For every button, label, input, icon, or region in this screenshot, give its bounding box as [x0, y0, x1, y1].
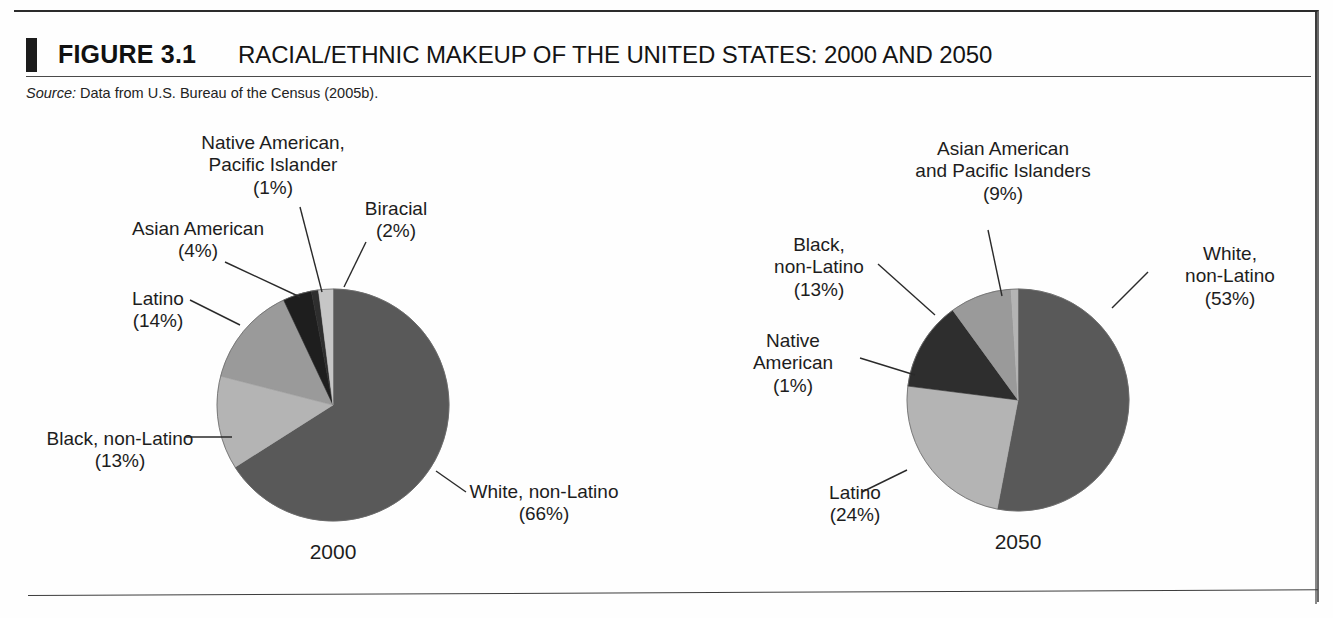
figure-header-accent-bar — [26, 38, 37, 72]
callout-2000-asian-american: Asian American (4%) — [108, 218, 288, 263]
year-label-2000: 2000 — [283, 540, 383, 564]
callout-2000-biracial: Biracial (2%) — [326, 198, 466, 243]
figure-frame-right-edge — [1315, 12, 1317, 604]
title-rule — [26, 76, 1311, 77]
figure-page: FIGURE 3.1 RACIAL/ETHNIC MAKEUP OF THE U… — [0, 0, 1333, 618]
source-text: Data from U.S. Bureau of the Census (200… — [76, 85, 378, 101]
figure-title: RACIAL/ETHNIC MAKEUP OF THE UNITED STATE… — [238, 41, 992, 69]
callout-2050-white-non-latino: White, non-Latino (53%) — [1155, 243, 1305, 310]
callout-2000-latino: Latino (14%) — [108, 288, 208, 333]
callout-2050-native-american: Native American (1%) — [718, 330, 868, 397]
figure-number: FIGURE 3.1 — [58, 40, 196, 69]
callout-2000-native-american-pacific-islander: Native American, Pacific Islander (1%) — [148, 132, 398, 199]
figure-header: FIGURE 3.1 RACIAL/ETHNIC MAKEUP OF THE U… — [26, 36, 1226, 76]
callout-2050-latino: Latino (24%) — [800, 482, 910, 527]
callout-2000-black-non-latino: Black, non-Latino (13%) — [20, 428, 220, 473]
source-label: Source: — [26, 85, 76, 101]
callout-2050-black-non-latino: Black, non-Latino (13%) — [744, 234, 894, 301]
source-line: Source: Data from U.S. Bureau of the Cen… — [26, 85, 378, 101]
callout-2000-white-non-latino: White, non-Latino (66%) — [444, 481, 644, 526]
callout-2050-asian-american-pacific-islanders: Asian American and Pacific Islanders (9%… — [873, 138, 1133, 205]
year-label-2050: 2050 — [968, 530, 1068, 554]
